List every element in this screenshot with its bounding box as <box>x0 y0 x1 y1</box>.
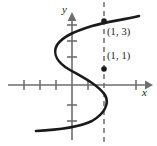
point-label-upper: (1, 3) <box>107 27 130 38</box>
point-label-lower: (1, 1) <box>107 51 130 62</box>
graph-figure: y x (1, 3) (1, 1) <box>0 0 157 146</box>
coordinate-plane-svg <box>0 0 157 146</box>
x-axis <box>8 81 153 90</box>
y-axis-label: y <box>62 4 67 15</box>
y-axis-arrowhead <box>68 12 77 21</box>
point-marker-lower <box>101 66 107 72</box>
x-axis-label: x <box>142 87 147 98</box>
point-marker-upper <box>101 18 107 24</box>
